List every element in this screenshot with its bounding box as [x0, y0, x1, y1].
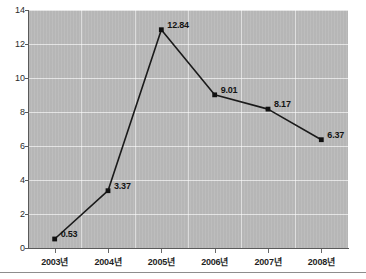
- x-axis-tick-label: 2003년: [41, 255, 68, 268]
- x-axis-tick-label: 2006년: [201, 255, 228, 268]
- x-axis-tick-mark: [215, 249, 216, 253]
- y-axis-tick-label: 2: [3, 210, 25, 219]
- y-axis-tick-label: 8: [3, 108, 25, 117]
- y-axis-tick-label: 0: [3, 244, 25, 253]
- data-point-label: 12.84: [167, 20, 189, 30]
- data-point-label: 9.01: [221, 85, 238, 95]
- x-axis-line: [28, 248, 349, 249]
- data-point-marker: [52, 237, 57, 242]
- y-axis-tick-label: 14: [3, 6, 25, 15]
- x-axis-tick-mark: [161, 249, 162, 253]
- data-point-label: 6.37: [327, 130, 344, 140]
- y-axis-tick-mark: [25, 248, 28, 249]
- y-axis-tick-label: 12: [3, 40, 25, 49]
- x-axis-tick-label: 2007년: [254, 255, 281, 268]
- x-axis-tick-label: 2008년: [308, 255, 335, 268]
- data-point-marker: [106, 188, 111, 193]
- data-point-marker: [212, 92, 217, 97]
- series-polyline: [55, 30, 322, 239]
- x-axis-tick-label: 2005년: [148, 255, 175, 268]
- y-axis-tick-label: 10: [3, 74, 25, 83]
- data-point-label: 0.53: [61, 229, 78, 239]
- data-point-marker: [319, 137, 324, 142]
- y-axis-tick-label: 6: [3, 142, 25, 151]
- bottom-divider: [0, 272, 366, 273]
- x-axis-tick-mark: [268, 249, 269, 253]
- data-series-line: [28, 10, 348, 248]
- y-axis-tick-label: 4: [3, 176, 25, 185]
- x-axis-tick-label: 2004년: [94, 255, 121, 268]
- x-axis-tick-mark: [321, 249, 322, 253]
- x-axis-tick-mark: [108, 249, 109, 253]
- x-axis-tick-mark: [55, 249, 56, 253]
- data-point-marker: [266, 107, 271, 112]
- data-point-marker: [159, 27, 164, 32]
- line-chart: 02468101214 2003년2004년2005년2006년2007년200…: [0, 0, 366, 279]
- data-point-label: 8.17: [274, 99, 291, 109]
- y-axis-tick-labels: 02468101214: [0, 0, 25, 279]
- data-point-label: 3.37: [114, 181, 131, 191]
